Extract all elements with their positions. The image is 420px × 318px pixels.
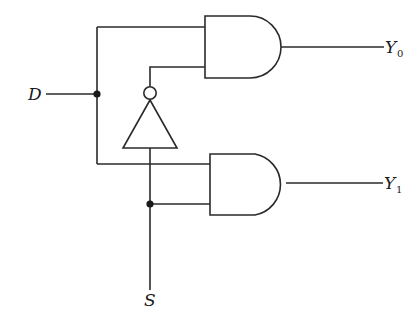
y0-subscript: 0 bbox=[397, 48, 403, 59]
demux-circuit-diagram: D S Y 0 Y 1 bbox=[0, 0, 420, 318]
not-gate-icon bbox=[123, 100, 177, 148]
y1-subscript: 1 bbox=[396, 184, 402, 195]
s-junction-dot bbox=[146, 200, 153, 207]
and-gate-1-icon bbox=[210, 154, 280, 215]
d-label: D bbox=[27, 84, 42, 104]
d-junction-dot bbox=[93, 90, 100, 97]
not-to-and0-wire bbox=[150, 67, 205, 87]
and-gate-0-icon bbox=[205, 16, 281, 78]
s-label: S bbox=[144, 290, 156, 310]
inverter-bubble-icon bbox=[144, 87, 156, 99]
